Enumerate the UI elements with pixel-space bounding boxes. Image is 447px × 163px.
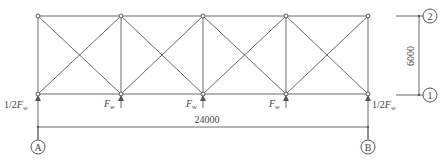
span-dimension — [37, 126, 369, 139]
load-label-2: Fw — [185, 98, 197, 111]
span-label: 24000 — [195, 114, 220, 125]
axis-bubble-1: 1 — [423, 88, 437, 102]
load-label-3: Fw — [268, 98, 280, 111]
load-label-right: 1/2Fw — [372, 99, 396, 112]
load-label-left: 1/2Fw — [4, 99, 28, 112]
verticals — [38, 16, 368, 94]
truss-diagram: 1/2Fw Fw Fw Fw 1/2Fw 24000 A B 6000 2 1 — [0, 0, 447, 163]
svg-text:2: 2 — [428, 11, 433, 22]
axis-bubble-a: A — [31, 140, 45, 154]
axis-bubble-2: 2 — [423, 9, 437, 23]
axis-bubble-b: B — [361, 140, 375, 154]
height-label: 6000 — [405, 46, 416, 66]
svg-text:1: 1 — [428, 90, 433, 101]
load-label-1: Fw — [103, 98, 115, 111]
svg-text:A: A — [34, 142, 42, 153]
svg-text:B: B — [365, 142, 372, 153]
